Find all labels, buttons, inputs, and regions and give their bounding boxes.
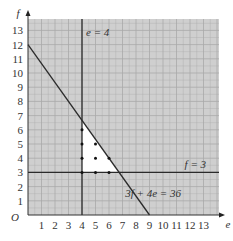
x-tick-label: 2 (52, 219, 58, 231)
y-tick-label: 9 (18, 81, 24, 93)
lattice-point (81, 143, 84, 146)
x-axis-label: e (226, 218, 231, 230)
x-tick-label: 10 (158, 219, 170, 231)
x-tick-label: 12 (185, 219, 196, 231)
x-tick-label: 5 (93, 219, 99, 231)
lattice-point (108, 171, 111, 174)
linear-programming-chart: 1234567891011121312345678910111213Oef e … (0, 0, 233, 241)
annotation-label: e = 4 (86, 26, 110, 38)
y-tick-label: 10 (12, 67, 24, 79)
x-tick-label: 9 (147, 219, 153, 231)
annotation-label: f = 3 (185, 158, 207, 170)
y-tick-label: 2 (18, 181, 24, 193)
x-axis-arrow-icon (219, 213, 225, 218)
x-tick-label: 8 (133, 219, 139, 231)
x-tick-label: 1 (39, 219, 45, 231)
x-tick-label: 7 (120, 219, 126, 231)
lattice-point (94, 171, 97, 174)
x-tick-label: 3 (66, 219, 72, 231)
lattice-point (108, 157, 111, 160)
lattice-point (81, 157, 84, 160)
y-axis-label: f (16, 7, 21, 19)
lattice-point (94, 143, 97, 146)
x-tick-label: 11 (171, 219, 182, 231)
lattice-point (81, 171, 84, 174)
y-tick-label: 13 (12, 24, 24, 36)
y-tick-label: 11 (12, 53, 23, 65)
x-tick-label: 13 (198, 219, 210, 231)
y-tick-label: 3 (18, 166, 24, 178)
lattice-point (81, 128, 84, 131)
y-tick-label: 1 (18, 195, 24, 207)
lattice-point (94, 157, 97, 160)
y-tick-label: 7 (18, 110, 24, 122)
y-tick-label: 4 (18, 152, 24, 164)
y-tick-label: 8 (18, 95, 24, 107)
annotation-label: 3f + 4e = 36 (124, 187, 181, 199)
x-tick-label: 4 (79, 219, 85, 231)
y-tick-label: 5 (18, 138, 24, 150)
y-tick-label: 6 (18, 124, 24, 136)
y-axis-arrow-icon (26, 10, 31, 16)
x-tick-label: 6 (106, 219, 112, 231)
origin-label: O (11, 211, 19, 223)
y-tick-label: 12 (12, 39, 23, 51)
